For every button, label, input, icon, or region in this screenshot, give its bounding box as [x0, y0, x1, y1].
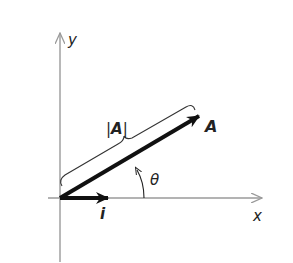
- vector-diagram: y x i A |A| θ: [0, 0, 293, 263]
- unit-vector-i-label: i: [100, 205, 106, 223]
- vector-a-label: A: [203, 117, 217, 136]
- magnitude-label: |A|: [106, 120, 128, 138]
- magnitude-brace: [61, 106, 195, 186]
- vector-a: [60, 116, 199, 198]
- angle-arc: [137, 170, 144, 198]
- y-axis-label: y: [67, 31, 78, 49]
- angle-theta-label: θ: [150, 171, 159, 189]
- x-axis-label: x: [252, 207, 262, 225]
